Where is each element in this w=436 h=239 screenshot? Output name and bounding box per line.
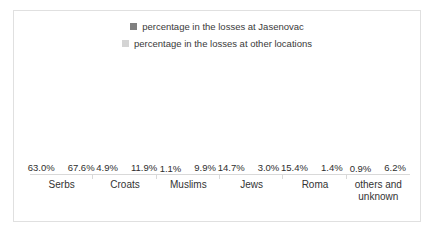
bar-value-label: 1.1% (160, 164, 182, 174)
bar-value-label: 14.7% (218, 163, 245, 173)
legend-swatch-icon-series2 (122, 40, 129, 47)
bar-group: 1.1%9.9% (157, 73, 220, 175)
bar-value-label: 15.4% (281, 163, 308, 173)
chart-container: percentage in the losses at Jasenovac pe… (13, 10, 421, 222)
chart-legend: percentage in the losses at Jasenovac pe… (14, 22, 420, 48)
bar-value-label: 67.6% (68, 163, 95, 173)
bar-value-label: 11.9% (131, 163, 157, 173)
category-label: Croats (93, 175, 156, 215)
category-label: Roma (283, 175, 346, 215)
legend-item-jasenovac: percentage in the losses at Jasenovac (130, 22, 304, 32)
category-label: Jews (220, 175, 283, 215)
plot-inner: 63.0%67.6%4.9%11.9%1.1%9.9%14.7%3.0%15.4… (30, 73, 410, 175)
category-label: others andunknown (347, 175, 410, 215)
bar-value-label: 0.9% (350, 164, 372, 174)
bar-group: 14.7%3.0% (220, 73, 283, 175)
bar-group: 15.4%1.4% (283, 73, 346, 175)
bar-group: 63.0%67.6% (30, 73, 93, 175)
bar-value-label: 3.0% (258, 163, 280, 173)
bar-value-label: 63.0% (28, 163, 55, 173)
category-axis-labels: SerbsCroatsMuslimsJewsRomaothers andunkn… (30, 175, 410, 215)
legend-label-series2: percentage in the losses at other locati… (134, 39, 312, 49)
category-label: Serbs (30, 175, 93, 215)
bar-value-label: 4.9% (96, 163, 118, 173)
legend-swatch-icon-series1 (130, 23, 137, 30)
plot-area: 63.0%67.6%4.9%11.9%1.1%9.9%14.7%3.0%15.4… (30, 73, 410, 175)
category-label: Muslims (157, 175, 220, 215)
bar-value-label: 1.4% (321, 163, 343, 173)
bar-group: 0.9%6.2% (347, 73, 410, 175)
bar-value-label: 6.2% (384, 163, 406, 173)
legend-item-other-locations: percentage in the losses at other locati… (122, 39, 312, 49)
bar-groups: 63.0%67.6%4.9%11.9%1.1%9.9%14.7%3.0%15.4… (30, 73, 410, 175)
bar-value-label: 9.9% (194, 163, 216, 173)
bar-group: 4.9%11.9% (93, 73, 156, 175)
legend-label-series1: percentage in the losses at Jasenovac (142, 22, 304, 32)
